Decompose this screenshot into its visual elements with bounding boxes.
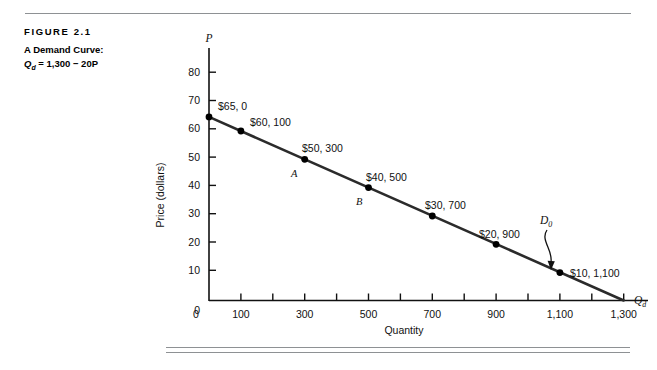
x-axis-symbol: Qd [634,294,647,309]
y-tick-label-70: 70 [188,94,200,106]
x-tick-label-300: 300 [296,308,314,320]
data-point-marker[interactable] [493,241,500,248]
y-axis-title: Price (dollars) [154,163,166,228]
x-tick-label-1300: 1,300 [611,308,637,320]
x-tick-label-500: 500 [360,308,378,320]
x-axis-title: Quantity [384,324,424,336]
y-tick-label-80: 80 [188,66,200,78]
y-tick-label-10: 10 [188,264,200,276]
x-tick-label-100: 100 [232,308,250,320]
x-axis-symbol-subscript: d [642,300,647,309]
data-point-label-40-500: $40, 500 [366,171,407,183]
y-axis-ticks [209,72,216,270]
y-tick-label-20: 20 [188,236,200,248]
demand-curve-label: D0 [539,214,552,229]
data-point-label-60-100: $60, 100 [250,116,291,128]
x-axis-ticks [241,294,624,301]
data-point-marker[interactable] [429,213,436,220]
data-point-label-50-300: $50, 300 [302,142,343,154]
data-point-marker[interactable] [238,128,245,135]
data-point-name-a: A [290,168,298,179]
data-point-label-20-900: $20, 900 [479,228,520,240]
y-tick-label-50: 50 [188,151,200,163]
data-point-label-65-0: $65, 0 [218,100,247,112]
y-axis-symbol: P [204,32,212,44]
x-tick-label-900: 900 [487,308,505,320]
data-point-name-b: B [356,196,363,207]
data-point-label-30-700: $30, 700 [425,199,466,211]
data-point-marker[interactable] [301,156,308,163]
figure-container: FIGURE 2.1 A Demand Curve: Qd = 1,300 − … [0,0,657,370]
x-tick-label-1100: 1,100 [547,308,573,320]
x-tick-label-700: 700 [424,308,442,320]
y-tick-label-30: 30 [188,207,200,219]
x-tick-label-0: 0 [193,308,199,320]
demand-curve-plot: 80 70 60 50 40 30 20 10 0 Price (dollars… [0,0,657,370]
demand-curve-label-arrow [545,230,551,262]
demand-curve-label-subscript: 0 [548,220,552,229]
y-tick-label-40: 40 [188,179,200,191]
y-tick-label-60: 60 [188,122,200,134]
data-point-marker[interactable] [557,269,564,276]
data-point-label-10-1100: $10, 1,100 [570,267,620,279]
bottom-divider-rule [166,347,630,353]
data-point-marker[interactable] [206,114,213,121]
data-point-marker[interactable] [365,184,372,191]
